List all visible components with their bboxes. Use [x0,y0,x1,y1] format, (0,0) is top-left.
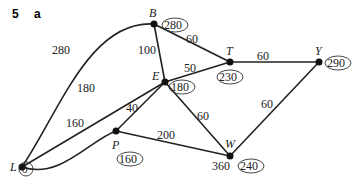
question-part: a [34,7,41,21]
final-label-W: 240 [240,159,258,173]
weight-B-T: 60 [186,32,198,46]
weight-L-P: 160 [66,116,84,130]
node-B [151,21,158,28]
network-diagram: 5 a 280 180 160 100 60 50 40 60 60 200 6… [0,0,360,180]
weight-E-W: 60 [197,109,209,123]
weight-E-P: 40 [126,101,138,115]
node-label-P: P [111,138,120,152]
edge-L-P [22,131,116,170]
final-label-Y: 290 [327,56,345,70]
temp-label-W: 360 [212,159,230,173]
final-label-L: 0 [22,163,28,175]
node-label-T: T [226,44,234,58]
node-T [227,59,234,66]
node-label-L: L [9,160,17,174]
node-label-W: W [225,137,236,151]
weight-Y-W: 60 [261,97,273,111]
final-label-T: 230 [219,70,237,84]
final-label-P: 160 [119,152,137,166]
node-label-B: B [149,6,157,20]
weight-T-Y: 60 [257,49,269,63]
node-Y [316,59,323,66]
question-number: 5 [12,7,19,21]
node-E [162,79,169,86]
node-label-E: E [151,69,160,83]
weight-L-E: 180 [77,81,95,95]
node-label-Y: Y [315,44,323,58]
final-label-E: 180 [171,80,189,94]
weight-L-B: 280 [52,43,70,57]
weight-P-W: 200 [157,128,175,142]
edge-L-B [22,24,154,167]
final-label-B: 280 [164,18,182,32]
weight-E-T: 50 [184,61,196,75]
weight-B-E: 100 [138,43,156,57]
node-P [113,128,120,135]
